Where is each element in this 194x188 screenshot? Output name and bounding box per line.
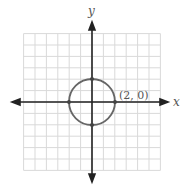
- point-label: (2, 0): [119, 89, 149, 102]
- coordinate-plane: (2, 0) x y: [0, 0, 194, 188]
- point-0-2: [90, 77, 94, 81]
- point-0-neg2: [90, 123, 94, 127]
- y-axis-down-arrow-icon: [89, 174, 95, 182]
- point-neg2-0: [67, 100, 71, 104]
- x-axis-right-arrow-icon: [160, 99, 168, 105]
- y-axis-up-arrow-icon: [89, 22, 95, 30]
- x-axis-left-arrow-icon: [12, 99, 20, 105]
- y-axis-label: y: [87, 4, 95, 18]
- x-axis-label: x: [173, 95, 180, 109]
- point-2-0: [113, 100, 117, 104]
